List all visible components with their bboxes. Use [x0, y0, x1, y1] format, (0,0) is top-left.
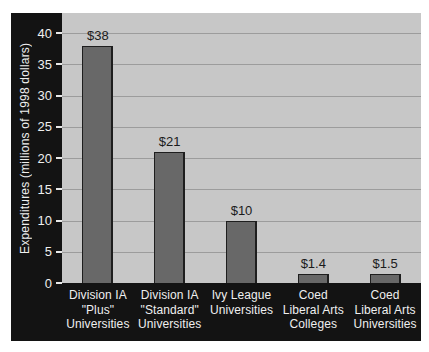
- bar-3: [226, 221, 257, 284]
- x-category-label-line: Division IA: [62, 288, 134, 303]
- y-tick-label-10: 10: [11, 213, 62, 229]
- gridline-30: [62, 96, 421, 97]
- x-category-label-line: Universities: [134, 317, 206, 332]
- x-category-label-line: Coed: [277, 288, 349, 303]
- x-category-label-5: CoedLiberal ArtsUniversities: [349, 288, 421, 332]
- y-tick-label-35: 35: [11, 56, 62, 72]
- y-tick-value: 10: [38, 213, 52, 228]
- x-category-label-line: Colleges: [277, 317, 349, 332]
- gridline-25: [62, 127, 421, 128]
- x-category-label-2: Division IA"Standard"Universities: [134, 288, 206, 332]
- bar-4: [298, 274, 329, 283]
- x-category-label-line: Liberal Arts: [277, 303, 349, 318]
- bar-1: [82, 46, 113, 284]
- plot-area: $38$21$10$1.4$1.5: [62, 13, 421, 283]
- y-tick-label-0: 0: [11, 275, 62, 291]
- y-tick-label-20: 20: [11, 150, 62, 166]
- y-tick-label-25: 25: [11, 119, 62, 135]
- x-category-label-line: Coed: [349, 288, 421, 303]
- bar-value-label-1: $38: [87, 28, 109, 43]
- bar-5: [370, 274, 401, 283]
- y-tick-label-5: 5: [11, 244, 62, 260]
- bar-value-label-5: $1.5: [372, 256, 397, 271]
- y-tick-label-40: 40: [11, 25, 62, 41]
- x-category-label-line: "Standard": [134, 303, 206, 318]
- bar-value-label-3: $10: [231, 203, 253, 218]
- y-tick-value: 35: [38, 57, 52, 72]
- page: Expenditures (millions of 1998 dollars) …: [0, 0, 429, 352]
- bar-value-label-2: $21: [159, 134, 181, 149]
- x-category-label-line: Universities: [62, 317, 134, 332]
- y-tick-value: 40: [38, 26, 52, 41]
- y-tick-label-30: 30: [11, 88, 62, 104]
- x-category-label-line: Liberal Arts: [349, 303, 421, 318]
- y-tick-value: 0: [45, 276, 52, 291]
- x-category-label-4: CoedLiberal ArtsColleges: [277, 288, 349, 332]
- y-tick-label-15: 15: [11, 181, 62, 197]
- y-tick-value: 25: [38, 119, 52, 134]
- x-category-label-line: Universities: [349, 317, 421, 332]
- bar-value-label-4: $1.4: [301, 256, 326, 271]
- gridline-20: [62, 158, 421, 159]
- x-category-label-line: Ivy League: [206, 288, 278, 303]
- y-tick-value: 15: [38, 182, 52, 197]
- chart-frame: Expenditures (millions of 1998 dollars) …: [11, 13, 421, 341]
- gridline-40: [62, 33, 421, 34]
- gridline-35: [62, 64, 421, 65]
- y-tick-value: 30: [38, 88, 52, 103]
- gridline-15: [62, 189, 421, 190]
- y-tick-value: 20: [38, 151, 52, 166]
- x-category-label-line: Universities: [206, 303, 278, 318]
- x-category-label-3: Ivy LeagueUniversities: [206, 288, 278, 317]
- y-tick-value: 5: [45, 244, 52, 259]
- x-category-label-1: Division IA"Plus"Universities: [62, 288, 134, 332]
- x-category-label-line: "Plus": [62, 303, 134, 318]
- bar-2: [154, 152, 185, 283]
- y-axis-title: Expenditures (millions of 1998 dollars): [16, 13, 34, 283]
- x-category-label-line: Division IA: [134, 288, 206, 303]
